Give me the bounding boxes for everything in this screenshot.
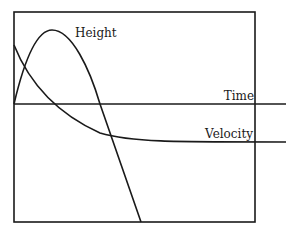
velocity-label: Velocity (204, 127, 253, 141)
motion-diagram: Height Time Velocity (0, 0, 295, 240)
height-label: Height (75, 26, 117, 40)
height-curve (14, 30, 141, 222)
time-label: Time (224, 89, 254, 103)
plot-frame (14, 12, 255, 222)
